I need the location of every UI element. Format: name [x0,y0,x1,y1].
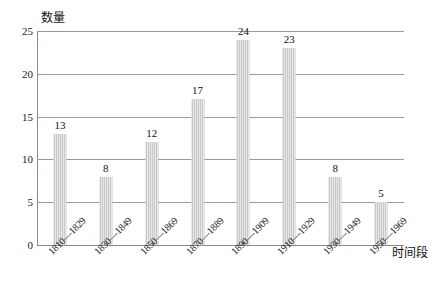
plot-area: 1381217242385 [37,31,404,245]
bar-value-label: 8 [103,163,109,174]
y-axis-tick-labels: 0510152025 [0,31,33,245]
bar-value-label: 13 [54,120,65,131]
bar[interactable] [191,99,204,245]
y-axis-title: 数量 [41,8,65,25]
bar-chart-figure: 数量 时间段 0510152025 1381217242385 1810—182… [0,0,434,301]
bar-slot: 12 [129,31,175,245]
y-axis-tick-label: 25 [3,26,33,37]
bar-slot: 8 [312,31,358,245]
bar-value-label: 8 [332,163,338,174]
bar-slot: 5 [358,31,404,245]
bar-slot: 17 [175,31,221,245]
bar-slot: 13 [37,31,83,245]
bar-value-label: 5 [378,188,384,199]
bar[interactable] [237,40,250,245]
bar-slot: 24 [221,31,267,245]
y-axis-tick-label: 10 [3,154,33,165]
bar-slot: 8 [83,31,129,245]
bar[interactable] [283,48,296,245]
bar-slot: 23 [266,31,312,245]
bar-value-label: 24 [238,26,249,37]
y-axis-tick-label: 20 [3,69,33,80]
y-axis-tick-label: 0 [3,240,33,251]
y-axis-tick-label: 15 [3,112,33,123]
bar-value-label: 12 [146,128,157,139]
y-axis-tick-label: 5 [3,197,33,208]
bar-value-label: 17 [192,85,203,96]
bar-value-label: 23 [284,34,295,45]
bar[interactable] [53,134,66,245]
gridline [37,245,404,246]
